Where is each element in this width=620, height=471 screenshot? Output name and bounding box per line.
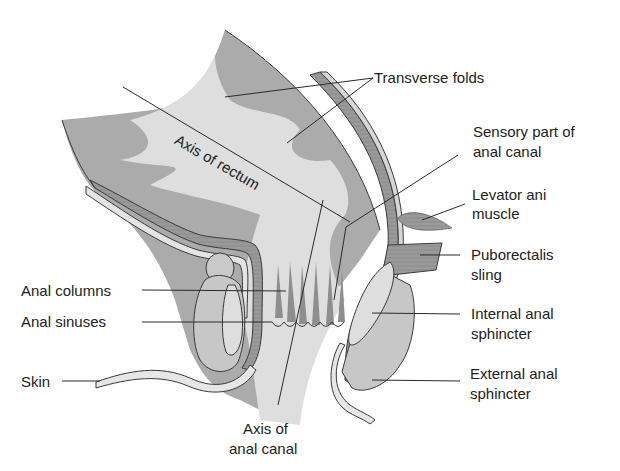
label-transverse-folds: Transverse folds [374,68,484,87]
label-skin: Skin [21,372,50,391]
levator-ani-shape [398,213,452,231]
levator-leader [422,204,465,220]
label-external-sphincter-line2: sphincter [470,384,531,403]
label-levator-ani-line2: muscle [472,204,520,223]
label-anal-columns: Anal columns [21,281,111,300]
label-levator-ani-line1: Levator ani [472,185,546,204]
label-external-sphincter-line1: External anal [470,364,558,383]
label-internal-sphincter-line1: Internal anal [471,304,554,323]
label-puborectalis-line1: Puborectalis [471,245,554,264]
label-puborectalis-line2: sling [471,265,502,284]
label-axis-of-anal-canal-line1: Axis of [243,419,288,438]
label-sensory-part-line2: anal canal [473,142,541,161]
label-sensory-part-line1: Sensory part of [473,122,575,141]
label-anal-sinuses: Anal sinuses [21,312,106,331]
label-internal-sphincter-line2: sphincter [471,324,532,343]
label-axis-of-anal-canal-line2: anal canal [229,439,297,458]
